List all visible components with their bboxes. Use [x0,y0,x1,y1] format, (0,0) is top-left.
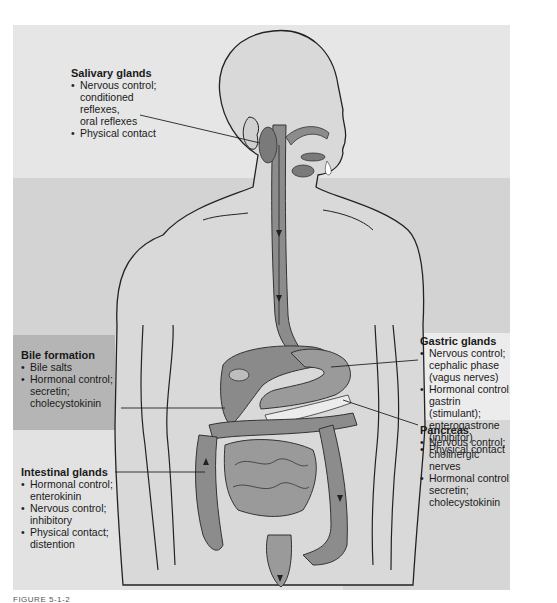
sublingual-gland [301,153,325,161]
pancreas-title: Pancreas [420,424,510,436]
salivary-item-physical: Physical contact [71,127,181,139]
pancreas-item-nervous: Nervous control; cholinergic nerves [420,436,510,472]
pancreas-label: Pancreas Nervous control; cholinergic ne… [420,424,510,508]
figure-caption: FIGURE 5-1-2 [13,595,70,603]
intestinal-item-hormonal: Hormonal control; enterokinin [21,478,117,502]
figure-panel: Salivary glands Nervous control; conditi… [13,25,510,590]
intestinal-item-nervous: Nervous control; inhibitory [21,502,117,526]
small-intestine [224,440,316,517]
salivary-glands-title: Salivary glands [71,67,181,79]
intestinal-item-physical: Physical contact; distention [21,526,117,550]
salivary-item-nervous: Nervous control; conditioned reflexes, o… [71,79,181,127]
parotid-gland [259,127,277,163]
gastric-item-nervous: Nervous control; cephalic phase (vagus n… [420,347,510,383]
bile-formation-label: Bile formation Bile salts Hormonal contr… [21,349,117,409]
bile-formation-title: Bile formation [21,349,117,361]
gastric-glands-title: Gastric glands [420,335,510,347]
bile-item-salts: Bile salts [21,361,117,373]
bile-item-hormonal: Hormonal control; secretin; cholecystoki… [21,373,117,409]
intestinal-glands-title: Intestinal glands [21,466,117,478]
gallbladder [229,369,249,381]
pancreas-item-hormonal: Hormonal control; secretin; cholecystoki… [420,472,510,508]
intestinal-glands-label: Intestinal glands Hormonal control; ente… [21,466,117,550]
salivary-glands-label: Salivary glands Nervous control; conditi… [71,67,181,139]
submandibular-gland [292,165,314,177]
